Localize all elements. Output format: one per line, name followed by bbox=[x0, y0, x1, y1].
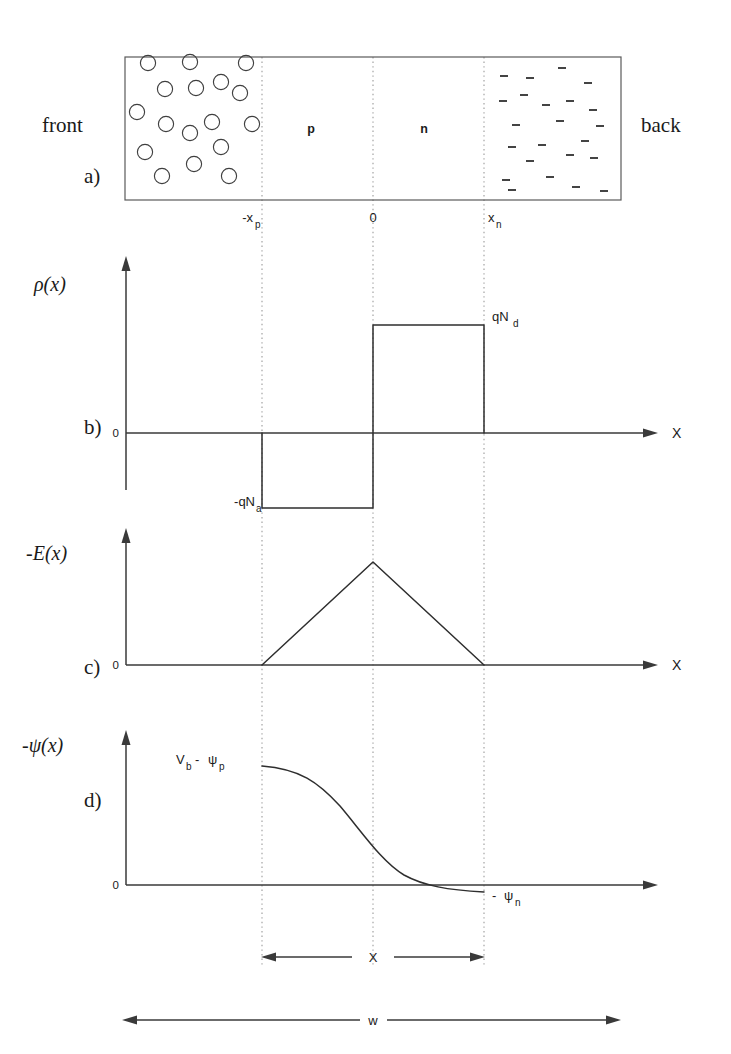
hole-circle bbox=[232, 85, 247, 100]
device-width-label: w bbox=[367, 1013, 378, 1028]
pn-junction-figure: p n front back a) b) c) d) -x p 0 x n 0 … bbox=[0, 0, 731, 1054]
tick-label-xn-base: x bbox=[488, 210, 495, 225]
panel-b-x-axis-arrowhead bbox=[643, 429, 658, 438]
panel-d-y-axis-label: -ψ(x) bbox=[22, 734, 64, 757]
tick-label-xn-sub: n bbox=[496, 219, 502, 230]
panel-c-electric-field: 0 -E(x) X bbox=[26, 528, 682, 673]
panel-label-d: d) bbox=[84, 788, 102, 812]
hole-circle bbox=[140, 55, 155, 70]
dimension-depletion-width: X bbox=[261, 950, 485, 965]
electron-carriers-group bbox=[499, 68, 608, 191]
psin-base-label: ψ bbox=[504, 888, 513, 903]
charge-value-qnd: qN d bbox=[492, 309, 519, 329]
panel-b-y-axis-arrowhead bbox=[122, 256, 131, 271]
panel-c-y-axis-arrowhead bbox=[122, 528, 131, 543]
potential-value-vb-minus-psip: V b - ψ p bbox=[176, 752, 225, 772]
device-width-arrow-left bbox=[122, 1016, 137, 1025]
hole-circle bbox=[188, 80, 203, 95]
psip-base-label: ψ bbox=[208, 752, 217, 767]
charge-density-step-profile bbox=[262, 325, 484, 508]
hole-circle bbox=[213, 139, 228, 154]
back-label: back bbox=[641, 113, 681, 137]
depletion-width-arrow-left bbox=[261, 953, 276, 962]
dimension-device-width: w bbox=[122, 1013, 621, 1028]
junction-guidelines bbox=[262, 57, 484, 965]
hole-circle bbox=[221, 168, 236, 183]
hole-circle bbox=[137, 144, 152, 159]
hole-circle bbox=[213, 74, 228, 89]
hole-circle bbox=[129, 104, 144, 119]
psin-minus-sign: - bbox=[492, 888, 496, 903]
negqna-base-label: -qN bbox=[234, 494, 255, 509]
depletion-width-label: X bbox=[369, 950, 378, 965]
device-width-arrow-right bbox=[606, 1016, 621, 1025]
panel-c-y-axis-label: -E(x) bbox=[26, 542, 67, 565]
panel-b-zero-label: 0 bbox=[113, 427, 119, 439]
junction-tick-labels: -x p 0 x n bbox=[242, 210, 501, 230]
vb-base-label: V bbox=[176, 752, 185, 767]
potential-value-minus-psin: - ψ n bbox=[492, 888, 521, 908]
panel-b-y-axis-label: ρ(x) bbox=[33, 273, 66, 296]
panel-d-potential: 0 -ψ(x) V b - ψ p - ψ n bbox=[22, 730, 658, 908]
negqna-sub-label: a bbox=[256, 503, 262, 514]
panel-b-x-axis-label: X bbox=[672, 425, 682, 441]
panel-d-x-axis-arrowhead bbox=[643, 881, 658, 890]
hole-circle bbox=[244, 116, 259, 131]
hole-carriers-group bbox=[129, 54, 259, 183]
hole-circle bbox=[157, 81, 172, 96]
tick-label-xp-base: -x bbox=[242, 210, 253, 225]
panel-c-x-axis-label: X bbox=[672, 657, 682, 673]
psip-sub-label: p bbox=[219, 761, 225, 772]
region-label-p: p bbox=[307, 122, 315, 136]
vb-sub-label: b bbox=[186, 761, 192, 772]
charge-value-neg-qna: -qN a bbox=[234, 494, 262, 514]
depletion-width-arrow-right bbox=[470, 953, 485, 962]
qnd-sub-label: d bbox=[513, 318, 519, 329]
panel-b-charge-density: 0 ρ(x) X qN d -qN a bbox=[33, 256, 682, 514]
hole-circle bbox=[204, 114, 219, 129]
panel-c-x-axis-arrowhead bbox=[643, 661, 658, 670]
qnd-base-label: qN bbox=[492, 309, 509, 324]
region-label-n: n bbox=[420, 122, 428, 136]
hole-circle bbox=[154, 168, 169, 183]
tick-label-zero: 0 bbox=[369, 210, 376, 225]
tick-label-xp-sub: p bbox=[255, 219, 261, 230]
front-label: front bbox=[42, 113, 83, 137]
panel-c-zero-label: 0 bbox=[113, 659, 119, 671]
hole-circle bbox=[158, 116, 173, 131]
panel-label-b: b) bbox=[84, 415, 102, 439]
panel-d-zero-label: 0 bbox=[113, 879, 119, 891]
hole-circle bbox=[182, 125, 197, 140]
panel-label-a: a) bbox=[84, 164, 100, 188]
panel-label-c: c) bbox=[84, 655, 100, 679]
hole-circle bbox=[238, 55, 253, 70]
panel-d-y-axis-arrowhead bbox=[122, 730, 131, 745]
device-body-outline bbox=[125, 57, 621, 200]
hole-circle bbox=[186, 156, 201, 171]
psin-sub-label: n bbox=[515, 897, 521, 908]
vb-minus-sign: - bbox=[195, 752, 199, 767]
figure-root: p n front back a) b) c) d) -x p 0 x n 0 … bbox=[0, 0, 731, 1054]
